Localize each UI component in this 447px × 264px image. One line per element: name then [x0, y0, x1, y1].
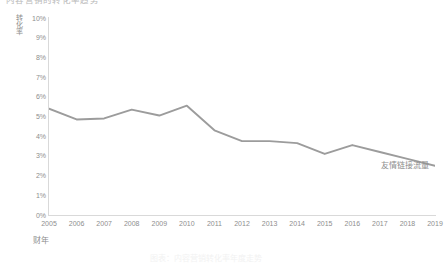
y-tick-label: 8% [36, 54, 46, 61]
x-tick-label: 2019 [422, 220, 447, 228]
x-axis-tick-labels: 2005200620072008200920102011201220132014… [36, 220, 447, 232]
x-tick-label: 2008 [119, 220, 145, 228]
x-tick-label: 2005 [36, 220, 62, 228]
series-polyline [49, 106, 435, 166]
chart-caption: 图表：内容营销转化率年度走势 [150, 254, 262, 264]
y-tick-label: 2% [36, 172, 46, 179]
chart-figure: 内容营销的转化率趋势 转化率 0%1%2%3%4%5%6%7%8%9%10% 2… [0, 0, 447, 264]
y-tick-label: 0% [36, 212, 46, 219]
y-tick-label: 7% [36, 74, 46, 81]
y-axis-tick-labels: 0%1%2%3%4%5%6%7%8%9%10% [26, 12, 46, 220]
y-tick-label: 1% [36, 192, 46, 199]
y-tick-label: 9% [36, 34, 46, 41]
x-tick-label: 2009 [146, 220, 172, 228]
line-series-svg [49, 18, 435, 215]
x-axis-title: 财年 [33, 236, 49, 246]
x-tick-label: 2016 [339, 220, 365, 228]
x-tick-label: 2011 [201, 220, 227, 228]
x-tick-label: 2013 [257, 220, 283, 228]
x-tick-label: 2018 [394, 220, 420, 228]
x-tick-label: 2015 [312, 220, 338, 228]
x-tick-label: 2010 [174, 220, 200, 228]
y-tick-label: 6% [36, 93, 46, 100]
plot-area [49, 18, 435, 215]
y-tick-label: 3% [36, 152, 46, 159]
x-tick-label: 2017 [367, 220, 393, 228]
y-tick-label: 10% [32, 15, 46, 22]
x-tick-label: 2007 [91, 220, 117, 228]
chart-title: 内容营销的转化率趋势 [6, 0, 99, 5]
x-tick-label: 2012 [229, 220, 255, 228]
x-axis-line [48, 215, 436, 216]
x-tick-label: 2006 [64, 220, 90, 228]
y-tick-label: 5% [36, 113, 46, 120]
y-tick-label: 4% [36, 133, 46, 140]
y-axis-title: 转化率 [11, 14, 23, 35]
series-end-label: 友情链接流量 [381, 161, 429, 171]
x-tick-label: 2014 [284, 220, 310, 228]
